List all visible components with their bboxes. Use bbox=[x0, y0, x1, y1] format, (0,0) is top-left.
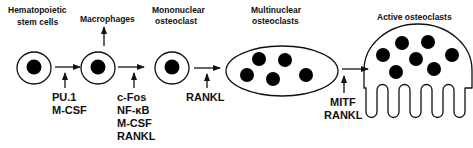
cell-multinuclear-osteoclast bbox=[226, 46, 338, 96]
label-active-osteoclasts: Active osteoclasts bbox=[377, 12, 452, 22]
cell-precursor bbox=[81, 52, 115, 84]
label-mononuclear-line1: Mononuclear bbox=[152, 5, 206, 15]
factor-mitf: MITF bbox=[330, 96, 356, 108]
label-mononuclear-line2: osteoclast bbox=[155, 16, 197, 26]
factor-cfos: c-Fos bbox=[117, 91, 146, 103]
factor-pu1: PU.1 bbox=[52, 91, 76, 103]
label-multinuclear-line1: Multinuclear bbox=[251, 5, 302, 15]
factor-nfkb: NF-κB bbox=[117, 104, 149, 116]
label-multinuclear-line2: osteoclasts bbox=[252, 16, 299, 26]
osteoclast-differentiation-diagram: Hematopoietic stem cells Macrophages Mon… bbox=[0, 0, 473, 148]
factor-rankl-1: RANKL bbox=[117, 130, 156, 142]
cell-hematopoietic-stem bbox=[17, 52, 51, 84]
factor-rankl-3: RANKL bbox=[324, 109, 363, 121]
label-hematopoietic-line2: stem cells bbox=[17, 17, 58, 27]
factor-rankl-2: RANKL bbox=[186, 91, 225, 103]
cell-mononuclear-osteoclast bbox=[155, 52, 189, 84]
factor-mcsf-1: M-CSF bbox=[52, 104, 87, 116]
label-macrophages: Macrophages bbox=[80, 14, 135, 24]
factor-mcsf-2: M-CSF bbox=[117, 117, 152, 129]
label-hematopoietic-line1: Hematopoietic bbox=[8, 5, 67, 15]
cell-active-osteoclast bbox=[364, 24, 472, 118]
